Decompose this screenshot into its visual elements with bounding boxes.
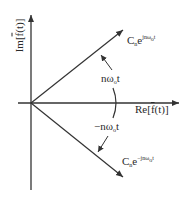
imaginary-axis-label: Im[f(t)] [14,11,25,61]
real-axis-label: Re[f(t)] [135,104,169,115]
negative-phasor-vector [31,103,123,177]
negative-angle-label: −nωot [94,121,119,133]
negative-angle-pointer [98,136,108,152]
negative-phasor-label: Cne−jnωot [122,155,154,168]
positive-angle-label: nωot [101,73,120,85]
positive-angle-pointer [101,55,112,70]
phasor-diagram [0,0,188,198]
positive-phasor-label: Cnejnωot [127,34,156,47]
